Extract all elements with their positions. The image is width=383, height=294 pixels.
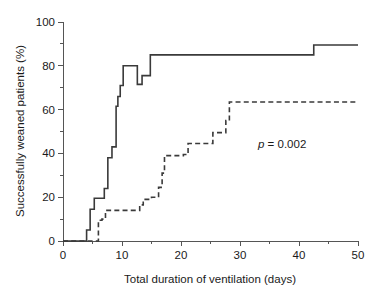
- p-value-number: = 0.002: [264, 138, 306, 150]
- x-tick-label-10: 10: [116, 249, 129, 261]
- x-tick-label-0: 0: [60, 249, 66, 261]
- solid-curve-line: [63, 45, 358, 241]
- y-tick-label-100: 100: [36, 16, 55, 28]
- y-tick-label-60: 60: [42, 104, 55, 116]
- x-axis-tick-labels: 01020304050: [60, 249, 365, 261]
- x-tick-label-40: 40: [293, 249, 306, 261]
- p-value-annotation: p = 0.002: [257, 138, 306, 150]
- y-tick-label-20: 20: [42, 191, 55, 203]
- y-tick-label-40: 40: [42, 147, 55, 159]
- x-axis-title: Total duration of ventilation (days): [124, 273, 296, 285]
- series-group: [63, 45, 358, 241]
- x-tick-label-30: 30: [234, 249, 247, 261]
- x-tick-label-50: 50: [352, 249, 365, 261]
- y-tick-label-80: 80: [42, 60, 55, 72]
- x-tick-label-20: 20: [175, 249, 188, 261]
- survival-curve-chart: 020406080100 01020304050 Total duration …: [0, 0, 383, 294]
- y-tick-label-0: 0: [49, 235, 55, 247]
- y-axis-tick-labels: 020406080100: [36, 16, 55, 247]
- y-axis-title: Successfully weaned patients (%): [14, 45, 26, 217]
- chart-figure: 020406080100 01020304050 Total duration …: [0, 0, 383, 294]
